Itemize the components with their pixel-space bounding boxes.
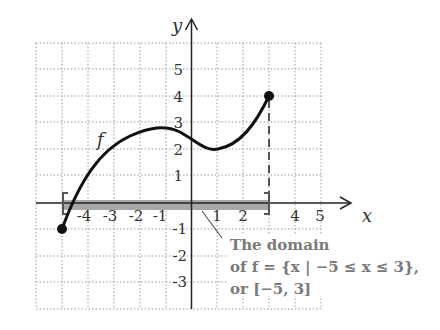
endpoint-left — [57, 224, 67, 234]
annotation-line-1: The domain — [230, 236, 330, 254]
y-tick-3: 3 — [173, 114, 183, 132]
x-tick-neg3: -3 — [103, 207, 118, 225]
function-label: f — [95, 129, 107, 150]
y-tick-1: 1 — [173, 167, 183, 185]
x-tick-4: 4 — [290, 207, 300, 225]
x-tick-neg2: -2 — [129, 207, 144, 225]
function-graph: 5 4 3 2 1 -1 -2 -3 -4 -3 -2 -1 1 2 4 5 x… — [0, 0, 440, 330]
y-tick-5: 5 — [173, 61, 183, 79]
y-tick-neg3: -3 — [172, 273, 187, 291]
x-tick-neg4: -4 — [77, 207, 92, 225]
x-tick-neg1: -1 — [153, 207, 168, 225]
y-tick-neg1: -1 — [172, 220, 187, 238]
y-tick-neg2: -2 — [172, 247, 187, 265]
x-axis-label: x — [362, 205, 372, 226]
x-tick-5: 5 — [315, 207, 325, 225]
x-tick-1: 1 — [212, 207, 222, 225]
y-tick-4: 4 — [173, 88, 183, 106]
endpoint-right — [264, 91, 274, 101]
y-tick-2: 2 — [173, 141, 183, 159]
x-tick-2: 2 — [238, 207, 248, 225]
annotation-line-3: or [−5, 3] — [230, 280, 311, 298]
y-axis-label: y — [171, 15, 183, 36]
annotation-line-2: of f = {x | −5 ≤ x ≤ 3}, — [230, 258, 419, 276]
